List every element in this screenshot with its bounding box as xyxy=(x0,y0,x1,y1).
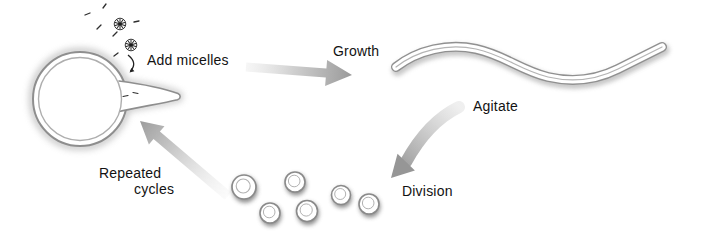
vesicle-inner-membrane xyxy=(39,58,122,141)
micelle-icon xyxy=(125,39,137,51)
add-micelles-arrow xyxy=(128,55,134,73)
micelle-icon xyxy=(114,18,126,30)
daughter-vesicle xyxy=(285,172,307,196)
daughter-vesicle xyxy=(297,201,320,226)
add-micelles-label: Add micelles xyxy=(147,53,229,68)
protocell-growth-division-cycle-diagram: Add micelles Growth Agitate Division Rep… xyxy=(0,0,701,238)
repeated-cycles-line2: cycles xyxy=(134,182,174,197)
daughter-vesicle xyxy=(232,175,258,203)
repeated-cycles-line1: Repeated xyxy=(99,166,161,181)
agitate-label: Agitate xyxy=(473,99,518,114)
growth-arrow xyxy=(246,60,352,86)
daughter-vesicle xyxy=(359,194,381,218)
growth-label: Growth xyxy=(333,44,379,59)
daughter-vesicles-group xyxy=(232,172,381,227)
daughter-vesicle xyxy=(260,203,282,227)
micelles-group xyxy=(85,4,139,56)
division-label: Division xyxy=(402,184,453,199)
diagram-canvas xyxy=(0,0,701,238)
agitate-arrow xyxy=(391,107,459,178)
daughter-vesicle xyxy=(332,186,353,209)
tubular-vesicle xyxy=(396,47,664,83)
